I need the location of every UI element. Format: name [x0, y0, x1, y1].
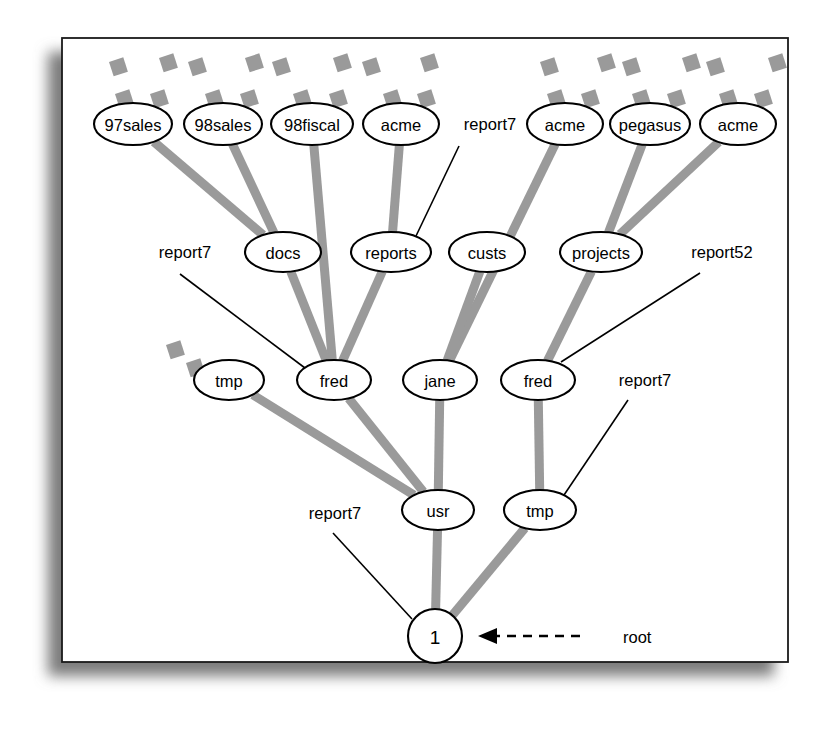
node-tmp[interactable]: tmp [194, 360, 264, 400]
node-label: 1 [430, 627, 441, 648]
node-98sales[interactable]: 98sales [184, 103, 262, 145]
node-label: tmp [526, 502, 554, 520]
node-tmp[interactable]: tmp [504, 490, 576, 530]
node-acme[interactable]: acme [363, 103, 439, 145]
node-reports[interactable]: reports [351, 232, 431, 272]
node-custs[interactable]: custs [449, 232, 525, 272]
node-fred[interactable]: fred [501, 360, 575, 400]
node-label: docs [266, 244, 301, 262]
node-label: acme [381, 116, 421, 134]
node-projects[interactable]: projects [560, 232, 642, 272]
diagram-canvas: 97sales98sales98fiscalacmeacmepegasusacm… [0, 0, 832, 743]
node-label: tmp [215, 372, 243, 390]
node-label: 98sales [195, 116, 252, 134]
tree-diagram-figure: 97sales98sales98fiscalacmeacmepegasusacm… [0, 0, 832, 743]
tree-edge-njane-nusr [438, 400, 439, 490]
node-usr[interactable]: usr [402, 490, 474, 530]
node-label: fred [320, 372, 348, 390]
annotation-label-a4: report7 [619, 371, 671, 389]
node-label: acme [545, 116, 585, 134]
node-fred[interactable]: fred [297, 360, 371, 400]
node-98fiscal[interactable]: 98fiscal [271, 103, 353, 145]
node-acme[interactable]: acme [527, 103, 603, 145]
node-jane[interactable]: jane [403, 360, 477, 400]
root-arrow-label: root [623, 628, 652, 646]
node-label: jane [423, 372, 455, 390]
node-label: 97sales [105, 116, 162, 134]
node-docs[interactable]: docs [245, 232, 321, 272]
annotation-label-a5: report7 [309, 504, 361, 522]
tree-edge-nusr-nroot [436, 530, 438, 609]
node-label: usr [427, 502, 450, 520]
node-label: fred [524, 372, 552, 390]
node-acme[interactable]: acme [700, 103, 776, 145]
node-label: reports [365, 244, 416, 262]
annotation-label-a1: report7 [464, 115, 516, 133]
node-label: projects [572, 244, 630, 262]
node-pegasus[interactable]: pegasus [610, 103, 690, 145]
node-label: custs [468, 244, 507, 262]
node-label: pegasus [619, 116, 681, 134]
annotation-label-a2: report7 [159, 243, 211, 261]
node-1[interactable]: 1 [408, 609, 462, 663]
node-label: 98fiscal [284, 116, 340, 134]
tree-edge-nfred2-ntmp2 [538, 400, 539, 490]
node-97sales[interactable]: 97sales [94, 103, 172, 145]
node-label: acme [718, 116, 758, 134]
annotation-label-a3: report52 [691, 243, 752, 261]
